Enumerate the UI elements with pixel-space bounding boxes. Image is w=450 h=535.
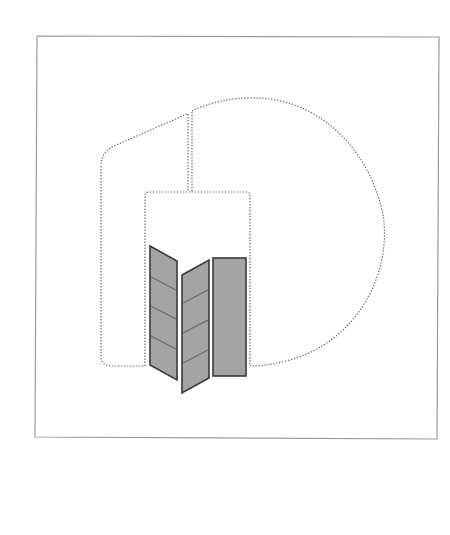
middle-angled-panel [182, 260, 209, 393]
right-flat-panel [213, 258, 246, 376]
diagram-canvas [0, 0, 450, 535]
left-angled-panel [150, 246, 177, 380]
outer-frame [35, 36, 439, 439]
